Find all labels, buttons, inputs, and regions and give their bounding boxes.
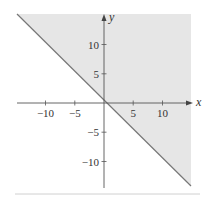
x-tick-label: −10 [37, 107, 55, 119]
x-tick-label: −5 [69, 107, 81, 119]
x-tick-label: 10 [157, 107, 169, 119]
x-tick-label: 5 [130, 107, 136, 119]
inequality-graph: x −10 −5 5 10 y 10 5 −5 −10 [0, 0, 208, 198]
y-tick-label: −5 [87, 126, 99, 138]
x-axis-label: x [195, 95, 202, 109]
y-tick-label: −10 [82, 156, 100, 168]
y-axis-label: y [108, 10, 115, 24]
y-tick-label: 10 [88, 39, 100, 51]
y-tick-label: 5 [94, 68, 100, 80]
